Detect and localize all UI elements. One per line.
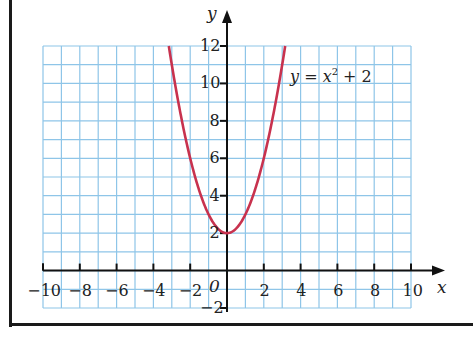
- y-tick-label: 6: [210, 150, 220, 166]
- y-tick-label: 12: [200, 38, 220, 54]
- x-tick-label: 10: [403, 283, 423, 299]
- y-tick-label: 2: [210, 225, 220, 241]
- y-axis-arrow-icon: [222, 10, 232, 23]
- x-tick-label: −10: [27, 283, 61, 299]
- x-tick-label: −6: [105, 283, 129, 299]
- y-axis-label: y: [207, 5, 217, 22]
- equation-rest: + 2: [338, 67, 372, 86]
- origin-label: 0: [209, 278, 220, 295]
- x-tick-label: 2: [260, 283, 270, 299]
- equation-label: y = x2 + 2: [290, 66, 372, 86]
- y-tick-label: 8: [210, 113, 220, 129]
- equation-var: x: [323, 67, 332, 86]
- x-axis-arrow-icon: [432, 266, 445, 276]
- x-tick-label: 8: [370, 283, 380, 299]
- x-axis-label: x: [437, 279, 447, 296]
- y-tick-label: 10: [200, 75, 220, 91]
- x-tick-label: −2: [179, 283, 203, 299]
- y-tick-label: 4: [210, 188, 220, 204]
- equation-lhs: y: [290, 67, 299, 86]
- x-tick-label: 6: [333, 283, 343, 299]
- x-tick-label: 4: [296, 283, 306, 299]
- x-tick-label: −4: [142, 283, 166, 299]
- x-tick-label: −8: [68, 283, 92, 299]
- y-tick-label: −2: [200, 300, 224, 316]
- equation-equals: =: [299, 67, 323, 86]
